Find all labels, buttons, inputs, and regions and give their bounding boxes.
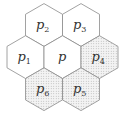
cell-label-p: p bbox=[58, 49, 67, 64]
hexagon-grid: p2 p3 p1 p p4 p6 p5 bbox=[0, 0, 123, 121]
hexagon-diagram: p2 p3 p1 p p4 p6 p5 bbox=[0, 0, 123, 121]
